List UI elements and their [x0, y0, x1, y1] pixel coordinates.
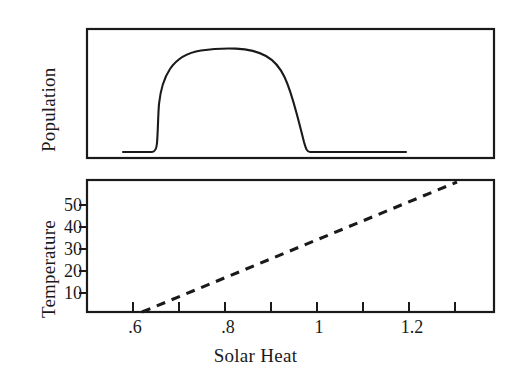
y-tick-label-50: 50 [48, 196, 82, 214]
x-tick-label-0.6: .6 [128, 318, 142, 336]
x-tick-label-1.2: 1.2 [401, 318, 424, 336]
x-tick-label-0.8: .8 [221, 318, 235, 336]
y-tick-label-10: 10 [48, 284, 82, 302]
x-tick-label-group: .6 .8 1 1.2 [0, 318, 511, 342]
x-axis-label: Solar Heat [0, 345, 511, 367]
y-tick-label-30: 30 [48, 240, 82, 258]
y-tick-label-40: 40 [48, 218, 82, 236]
y-tick-label-20: 20 [48, 262, 82, 280]
x-tick-label-1: 1 [315, 318, 324, 336]
